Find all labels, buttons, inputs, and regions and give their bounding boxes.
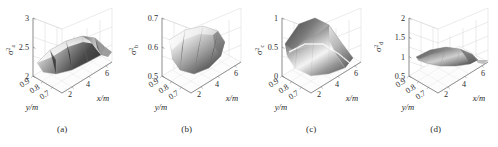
surface-plot-b: 0.7 0.6 0.5 σ2b 0.9 0.8 0.7 (125, 0, 250, 122)
z-axis-subscript-a: a (10, 45, 16, 48)
panel-caption-d: (d) (374, 124, 498, 134)
svg-text:σ2c: σ2c (254, 45, 265, 55)
surface-plot-a: 3 2.5 2 σ2a 0.9 0.8 0.7 (0, 0, 125, 122)
z-axis-label-a: σ2a (5, 45, 16, 55)
panel-c: 1 0.5 0 σ2c 0.9 0.8 0.7 (249, 0, 374, 147)
x-tick-b-0: 2 (196, 90, 200, 99)
x-tick-c-0: 2 (317, 90, 321, 99)
y-axis-title-a: y/m (25, 102, 38, 112)
panel-caption-b: (b) (125, 124, 250, 134)
z-tick-c-1: 0.5 (268, 43, 278, 52)
z-axis-subscript-b: b (133, 45, 139, 48)
panel-b: 0.7 0.6 0.5 σ2b 0.9 0.8 0.7 (125, 0, 250, 147)
z-tick-d-2: 1 (400, 53, 404, 62)
panel-a: 3 2.5 2 σ2a 0.9 0.8 0.7 (0, 0, 125, 147)
z-tick-c-0: 1 (274, 14, 278, 23)
surface-plot-d: 2 1.5 1 0.5 σ2d 0.9 0.8 0.7 (374, 0, 498, 122)
x-axis-title-text-a: x/m (96, 93, 109, 103)
surface-plot-c: 1 0.5 0 σ2c 0.9 0.8 0.7 (249, 0, 374, 122)
z-tick-d-0: 2 (400, 14, 404, 23)
panel-caption-c: (c) (249, 124, 374, 134)
x-axis-title-b: x/m (224, 93, 237, 103)
panel-caption-a: (a) (0, 124, 125, 134)
svg-text:σ2a: σ2a (5, 45, 16, 55)
z-tick-b-0: 0.7 (147, 14, 157, 23)
figure-panel-row: 3 2.5 2 σ2a 0.9 0.8 0.7 (0, 0, 498, 147)
y-axis-title-text-b: y/m (153, 102, 166, 112)
z-axis-subscript-c: c (259, 45, 265, 48)
x-tick-a-1: 4 (86, 80, 90, 89)
x-tick-c-1: 4 (335, 80, 339, 89)
z-axis-label-d: σ2d (374, 42, 384, 52)
x-axis-title-text-c: x/m (345, 93, 358, 103)
z-tick-a-0: 3 (25, 14, 29, 23)
z-axis-subscript-d: d (378, 42, 384, 45)
x-tick-b-2: 6 (233, 69, 237, 78)
x-tick-d-0: 2 (443, 90, 447, 99)
x-axis-title-a: x/m (96, 93, 109, 103)
x-axis-title-text-b: x/m (224, 93, 237, 103)
plot-area-d: 2 1.5 1 0.5 σ2d 0.9 0.8 0.7 (374, 0, 498, 122)
svg-text:σ2d: σ2d (374, 42, 384, 52)
x-tick-a-2: 6 (105, 69, 109, 78)
y-axis-title-c: y/m (274, 102, 287, 112)
panel-d: 2 1.5 1 0.5 σ2d 0.9 0.8 0.7 (374, 0, 498, 147)
y-axis-title-text-c: y/m (274, 102, 287, 112)
y-axis-title-b: y/m (153, 102, 166, 112)
x-axis-title-text-d: x/m (471, 93, 484, 103)
plot-area-c: 1 0.5 0 σ2c 0.9 0.8 0.7 (249, 0, 374, 122)
x-axis-title-c: x/m (345, 93, 358, 103)
z-tick-d-1: 1.5 (394, 33, 404, 42)
plot-area-a: 3 2.5 2 σ2a 0.9 0.8 0.7 (0, 0, 125, 122)
z-tick-b-1: 0.6 (147, 43, 157, 52)
z-axis-label-c: σ2c (254, 45, 265, 55)
y-axis-title-text-a: y/m (25, 102, 38, 112)
z-tick-a-1: 2.5 (19, 43, 29, 52)
plot-area-b: 0.7 0.6 0.5 σ2b 0.9 0.8 0.7 (125, 0, 250, 122)
x-axis-title-d: x/m (471, 93, 484, 103)
x-tick-b-1: 4 (214, 80, 218, 89)
x-tick-c-2: 6 (354, 69, 358, 78)
x-tick-a-0: 2 (68, 90, 72, 99)
x-tick-d-2: 6 (480, 69, 484, 78)
surface-mesh-c (285, 18, 353, 76)
z-axis-label-b: σ2b (128, 45, 139, 55)
x-tick-d-1: 4 (461, 80, 465, 89)
y-axis-title-text-d: y/m (400, 102, 413, 112)
svg-text:σ2b: σ2b (128, 45, 139, 55)
y-axis-title-d: y/m (400, 102, 413, 112)
